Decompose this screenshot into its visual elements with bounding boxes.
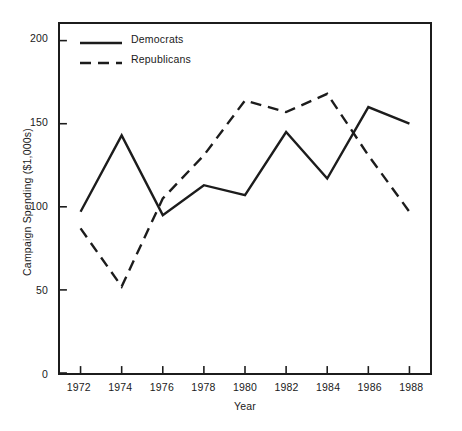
x-tick-label: 1972 (67, 381, 91, 393)
legend-item: Democrats (80, 32, 191, 45)
plot-area: DemocratsRepublicans (58, 22, 432, 375)
x-axis-tick-labels: 197219741976197819801982198419861988 (0, 381, 462, 397)
y-tick-label: 0 (42, 368, 48, 380)
x-tick-label: 1974 (108, 381, 132, 393)
series-layer (60, 24, 430, 373)
legend-swatch-solid (80, 34, 122, 44)
chart-figure: 050100150200 Campaign Spending ($1,000s)… (0, 0, 462, 431)
x-tick-label: 1988 (399, 381, 423, 393)
x-tick-label: 1978 (191, 381, 215, 393)
series-line-democrats (81, 107, 410, 215)
legend-swatch-dashed (80, 54, 122, 64)
y-axis-title: Campaign Spending ($1,000s) (21, 87, 33, 317)
x-tick-label: 1982 (274, 381, 298, 393)
legend-item: Republicans (80, 52, 191, 65)
legend-label: Democrats (131, 33, 184, 45)
chart-legend: DemocratsRepublicans (80, 32, 191, 65)
legend-label: Republicans (131, 53, 191, 65)
x-axis-title: Year (58, 400, 432, 412)
y-tick-label: 50 (36, 284, 48, 296)
y-tick-label: 200 (30, 32, 48, 44)
x-tick-label: 1976 (150, 381, 174, 393)
x-tick-label: 1980 (233, 381, 257, 393)
x-tick-label: 1984 (316, 381, 340, 393)
x-tick-label: 1986 (358, 381, 382, 393)
figure-caption (0, 423, 462, 431)
